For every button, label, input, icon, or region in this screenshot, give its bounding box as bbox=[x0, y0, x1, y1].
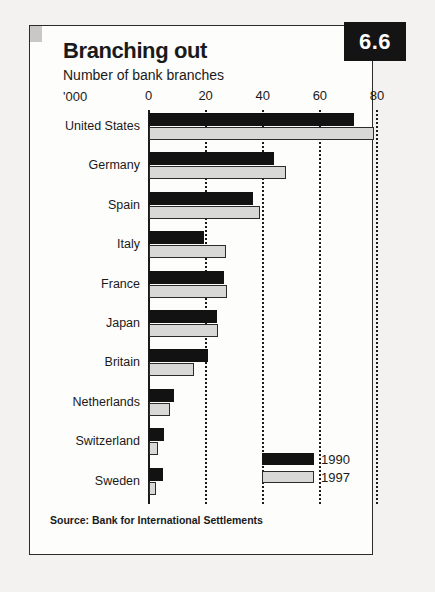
category-label: Britain bbox=[105, 355, 140, 369]
bar-1990 bbox=[149, 192, 253, 205]
x-tick-label: 20 bbox=[198, 88, 212, 103]
category-label: Japan bbox=[106, 316, 140, 330]
legend-item: 1990 bbox=[262, 451, 350, 467]
category-label: Italy bbox=[117, 237, 140, 251]
category-label: Netherlands bbox=[73, 395, 140, 409]
category-label: Sweden bbox=[95, 474, 140, 488]
legend-item: 1997 bbox=[262, 469, 350, 485]
bar-row: Germany bbox=[30, 149, 372, 188]
category-label: United States bbox=[65, 119, 140, 133]
bar-1997 bbox=[149, 324, 219, 337]
bar-1997 bbox=[149, 285, 228, 298]
bar-1990 bbox=[149, 468, 163, 481]
bar-1997 bbox=[149, 403, 170, 416]
legend-label: 1997 bbox=[321, 470, 350, 485]
category-label: Spain bbox=[108, 198, 140, 212]
bar-1990 bbox=[149, 428, 165, 441]
bar-row: Britain bbox=[30, 346, 372, 385]
category-label: France bbox=[101, 277, 140, 291]
chart-card: Branching out Number of bank branches '0… bbox=[29, 25, 373, 555]
bar-1990 bbox=[149, 349, 209, 362]
category-label: Switzerland bbox=[75, 434, 140, 448]
chart-page: Branching out Number of bank branches '0… bbox=[0, 0, 435, 592]
bar-row: Spain bbox=[30, 189, 372, 228]
legend-swatch bbox=[262, 453, 314, 465]
source-note: Source: Bank for International Settlemen… bbox=[50, 514, 263, 526]
bar-row: Japan bbox=[30, 307, 372, 346]
x-tick-label: 60 bbox=[313, 88, 327, 103]
legend-label: 1990 bbox=[321, 452, 350, 467]
bar-1990 bbox=[149, 271, 225, 284]
x-tick-label: 0 bbox=[145, 88, 152, 103]
bar-1997 bbox=[149, 442, 159, 455]
bar-row: Italy bbox=[30, 228, 372, 267]
bar-1997 bbox=[149, 482, 157, 495]
bar-1990 bbox=[149, 113, 355, 126]
bar-row: United States bbox=[30, 110, 372, 149]
bar-1997 bbox=[149, 245, 226, 258]
bar-1997 bbox=[149, 166, 286, 179]
figure-number-badge: 6.6 bbox=[344, 22, 406, 61]
x-tick-label: 40 bbox=[256, 88, 270, 103]
bar-1990 bbox=[149, 152, 275, 165]
bar-1990 bbox=[149, 310, 218, 323]
bar-row: France bbox=[30, 268, 372, 307]
bar-1990 bbox=[149, 389, 175, 402]
category-label: Germany bbox=[89, 158, 140, 172]
chart-legend: 19901997 bbox=[262, 451, 350, 487]
bar-row: Netherlands bbox=[30, 386, 372, 425]
bar-1997 bbox=[149, 363, 195, 376]
bar-1990 bbox=[149, 231, 205, 244]
x-tick-label: 80 bbox=[370, 88, 384, 103]
bar-1997 bbox=[149, 127, 375, 140]
bar-1997 bbox=[149, 206, 260, 219]
gridline bbox=[376, 110, 378, 504]
legend-swatch bbox=[262, 471, 314, 483]
